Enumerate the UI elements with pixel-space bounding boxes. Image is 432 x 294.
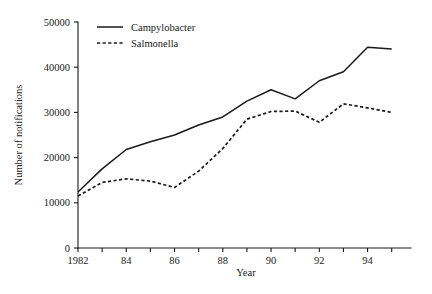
series-line-campylobacter: [78, 47, 392, 192]
series-lines: [78, 47, 392, 196]
y-tick-label: 10000: [44, 197, 70, 208]
x-tick-label: 88: [218, 255, 229, 266]
y-tick-label: 50000: [44, 17, 70, 28]
y-tick-label: 20000: [44, 152, 70, 163]
x-tick-label: 84: [121, 255, 132, 266]
x-axis-ticks: 1982848688909294: [68, 248, 392, 266]
x-tick-label: 1982: [68, 255, 89, 266]
line-chart: 01000020000300004000050000 1982848688909…: [0, 0, 432, 294]
x-tick-label: 86: [169, 255, 180, 266]
x-tick-label: 92: [314, 255, 325, 266]
chart-container: 01000020000300004000050000 1982848688909…: [0, 0, 432, 294]
legend-label-salmonella: Salmonella: [131, 38, 179, 49]
y-tick-label: 0: [65, 243, 70, 254]
chart-legend: CampylobacterSalmonella: [97, 22, 196, 49]
y-axis-ticks: 01000020000300004000050000: [44, 17, 78, 254]
y-axis-title: Number of notifications: [13, 85, 24, 186]
y-tick-label: 30000: [44, 107, 70, 118]
x-axis-title: Year: [236, 267, 256, 278]
y-tick-label: 40000: [44, 62, 70, 73]
x-tick-label: 94: [362, 255, 373, 266]
legend-label-campylobacter: Campylobacter: [131, 22, 196, 33]
x-tick-label: 90: [266, 255, 277, 266]
